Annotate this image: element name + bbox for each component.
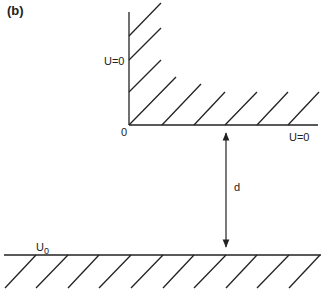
- hatch-line: [163, 255, 194, 288]
- hatch-line: [68, 255, 99, 288]
- label-vertical-wall: U=0: [104, 55, 125, 67]
- label-bottom-plate-main: U: [36, 241, 44, 253]
- hatch-line: [288, 92, 319, 125]
- hatch-line: [225, 92, 257, 125]
- hatch-line: [131, 255, 163, 288]
- label-bottom-plate-sub: 0: [44, 246, 49, 256]
- label-bottom-plate: U0: [36, 241, 49, 256]
- hatch-line: [257, 92, 288, 125]
- hatch-line: [129, 28, 161, 60]
- hatch-line: [257, 255, 289, 288]
- hatch-line: [129, 60, 161, 92]
- hatch-line: [129, 3, 161, 36]
- hatch-line: [194, 255, 226, 288]
- hatch-line: [5, 255, 36, 288]
- hatch-line: [36, 255, 68, 288]
- hatch-line: [226, 255, 257, 288]
- label-gap: d: [234, 181, 240, 193]
- corner-electrode: [129, 3, 319, 125]
- hatch-line: [194, 92, 225, 125]
- hatch-line: [99, 255, 131, 288]
- bottom-plate: [4, 255, 321, 288]
- hatch-line: [162, 84, 201, 125]
- label-horizontal-wall: U=0: [289, 131, 310, 143]
- label-origin: 0: [121, 126, 127, 138]
- hatch-line: [289, 255, 320, 288]
- diagram: (b) U=0 0 U=0 d U0: [0, 0, 323, 299]
- panel-label: (b): [7, 3, 24, 18]
